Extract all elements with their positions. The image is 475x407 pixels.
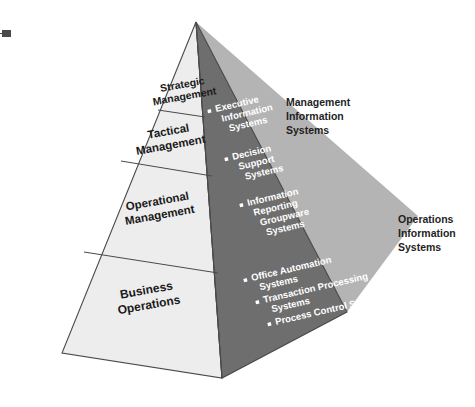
callout-mis-line2: Information: [286, 110, 344, 122]
callout-ois-line1: Operations: [398, 213, 454, 225]
figure-canvas: Strategic Management Tactical Management…: [0, 0, 475, 407]
callout-operations-information-systems: Operations Information Systems: [398, 213, 456, 253]
callout-mis-line1: Management: [286, 96, 351, 108]
callout-management-information-systems: Management Information Systems: [286, 96, 351, 136]
callout-ois-line3: Systems: [398, 241, 441, 253]
callout-ois-line2: Information: [398, 227, 456, 239]
pyramid-diagram: Strategic Management Tactical Management…: [0, 0, 475, 407]
callout-mis-line3: Systems: [286, 124, 329, 136]
